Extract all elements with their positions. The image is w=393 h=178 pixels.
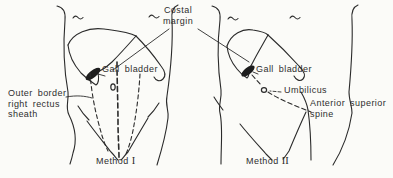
umbilicus-leader xyxy=(270,91,281,92)
costal-margin-leader-right xyxy=(198,29,249,62)
left-torso-outline-left xyxy=(57,6,75,164)
outer-border-label-line3: sheath xyxy=(8,109,66,120)
costal-margin-label-line1: Costal xyxy=(150,5,206,16)
inguinal-line-left xyxy=(240,124,272,160)
anterior-superior-spine-label-line2: spine xyxy=(310,109,386,120)
method2-caption-text: Method xyxy=(246,156,279,166)
umbilicus-label: Umbilicus xyxy=(284,85,327,96)
right-torso-outline-right xyxy=(333,5,358,165)
umbilicus-ring-left xyxy=(111,84,115,90)
method1-caption-text: Method xyxy=(96,156,129,166)
umbilicus-ring-right xyxy=(261,88,266,93)
nipple-mark-left xyxy=(73,16,83,19)
inguinal-line-left xyxy=(87,121,118,160)
method2-roman-numeral: II xyxy=(282,155,289,166)
method2-dashed-line-upper xyxy=(252,75,262,86)
iliac-crest-notch-left xyxy=(78,106,89,120)
gall-bladder-label-left: Gall bladder xyxy=(102,64,158,75)
leader-lines xyxy=(66,29,281,98)
anterior-superior-spine-label-line1: Anterior superior xyxy=(310,98,386,109)
midline-dashed xyxy=(117,62,119,158)
right-torso-outline-left xyxy=(212,6,222,164)
gall-bladder-label-right: Gall bladder xyxy=(256,64,312,75)
outer-border-rectus-sheath-label: Outer border right rectus sheath xyxy=(8,88,66,120)
figure-canvas: Costal margin Gall bladder Gall bladder … xyxy=(0,0,393,178)
nipple-mark-right xyxy=(290,16,300,19)
nipple-mark-left xyxy=(228,17,238,20)
liver-lower-edge xyxy=(68,45,99,85)
liver-top-edge xyxy=(68,29,136,45)
left-torso-drawing xyxy=(57,5,178,165)
method1-roman-numeral: I xyxy=(132,155,136,166)
outer-border-label-line2: right rectus xyxy=(8,99,66,110)
iliac-crest-notch-right xyxy=(148,103,159,117)
costal-margin-label-line2: margin xyxy=(150,16,206,27)
iliac-crest-notch-left xyxy=(214,97,223,110)
method2-caption: MethodII xyxy=(246,156,289,167)
outer-border-leader xyxy=(66,96,92,98)
costal-margin-label: Costal margin xyxy=(150,5,206,26)
rectus-sheath-dashed-right xyxy=(126,74,140,154)
anterior-superior-spine-label: Anterior superior spine xyxy=(310,98,386,119)
left-torso-outline-right xyxy=(157,5,178,165)
inguinal-line-right xyxy=(283,112,306,159)
outer-border-label-line1: Outer border xyxy=(8,88,66,99)
rectus-sheath-dashed-left xyxy=(90,73,108,151)
method1-caption: MethodI xyxy=(96,156,135,167)
liver-top-edge xyxy=(227,30,268,46)
